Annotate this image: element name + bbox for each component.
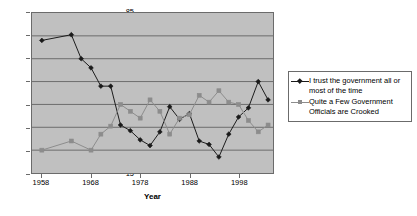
data-point	[256, 130, 260, 134]
legend-label: Quite a Few Government Officials are Cro…	[309, 97, 393, 116]
x-axis-tick-label: 1958	[21, 178, 61, 187]
chart-legend: I trust the government all or most of th…	[288, 71, 412, 122]
plot-area	[31, 12, 274, 174]
data-point	[148, 98, 152, 102]
data-point	[99, 132, 103, 136]
data-point	[226, 132, 231, 137]
legend-entry: Quite a Few Government Officials are Cro…	[291, 97, 408, 116]
line-chart: 8575655545352515 19581968197819881998 Ye…	[0, 0, 417, 216]
data-point	[227, 100, 231, 104]
y-axis-tick-mark	[26, 58, 30, 59]
data-point	[237, 102, 241, 106]
legend-key-diamond-icon	[291, 77, 309, 86]
series-line-0	[42, 35, 268, 157]
x-axis-tick-mark	[140, 174, 141, 178]
x-axis-tick-label: 1978	[120, 178, 160, 187]
data-point	[266, 97, 271, 102]
data-point	[256, 79, 261, 84]
y-axis-tick-mark	[26, 151, 30, 152]
x-axis-tick-label: 1968	[71, 178, 111, 187]
series-line-1	[42, 91, 268, 150]
x-axis-tick-label: 1988	[170, 178, 210, 187]
y-axis-tick-mark	[26, 35, 30, 36]
data-point	[69, 139, 73, 143]
y-axis-tick-mark	[26, 105, 30, 106]
data-point	[207, 100, 211, 104]
legend-key-square-icon	[291, 98, 309, 107]
data-point	[98, 84, 103, 89]
data-point	[118, 123, 123, 128]
data-point	[108, 84, 113, 89]
x-axis-tick-mark	[239, 174, 240, 178]
data-point	[89, 148, 93, 152]
data-point	[119, 102, 123, 106]
data-point	[138, 116, 142, 120]
data-point	[109, 124, 113, 128]
legend-label: I trust the government all or most of th…	[309, 76, 400, 95]
data-point	[69, 32, 74, 37]
data-point	[197, 139, 202, 144]
x-axis-tick-mark	[190, 174, 191, 178]
data-point	[40, 148, 44, 152]
data-point	[158, 109, 162, 113]
data-point	[168, 132, 172, 136]
x-axis-title: Year	[31, 192, 274, 201]
x-axis-tick-mark	[41, 174, 42, 178]
data-point	[128, 109, 132, 113]
data-point	[39, 38, 44, 43]
x-axis-tick-mark	[91, 174, 92, 178]
y-axis-tick-mark	[26, 81, 30, 82]
y-axis-tick-mark	[26, 128, 30, 129]
data-point	[246, 118, 250, 122]
x-axis-tick-label: 1998	[219, 178, 259, 187]
data-point	[217, 89, 221, 93]
data-point	[197, 93, 201, 97]
legend-entry: I trust the government all or most of th…	[291, 76, 408, 95]
plot-svg	[32, 13, 273, 173]
data-point	[178, 116, 182, 120]
data-point	[266, 123, 270, 127]
data-point	[187, 113, 191, 117]
y-axis-tick-mark	[26, 12, 30, 13]
y-axis-tick-mark	[26, 174, 30, 175]
